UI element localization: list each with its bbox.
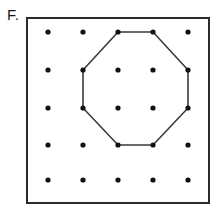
grid-dot bbox=[150, 177, 155, 182]
grid-dot bbox=[115, 29, 120, 34]
grid-dot bbox=[185, 67, 190, 72]
grid-dot bbox=[115, 142, 120, 147]
grid-dot bbox=[185, 177, 190, 182]
grid-dot bbox=[45, 177, 50, 182]
grid-dot bbox=[45, 29, 50, 34]
grid-dot bbox=[45, 105, 50, 110]
grid-dot bbox=[150, 67, 155, 72]
grid-dot bbox=[45, 142, 50, 147]
grid-dot bbox=[115, 177, 120, 182]
grid-dot bbox=[185, 29, 190, 34]
grid-dot bbox=[115, 105, 120, 110]
grid-dot bbox=[150, 29, 155, 34]
grid-dot bbox=[150, 105, 155, 110]
grid-dot bbox=[80, 177, 85, 182]
grid-dot bbox=[80, 142, 85, 147]
grid-dot bbox=[150, 142, 155, 147]
grid-dot bbox=[80, 105, 85, 110]
grid-dot bbox=[185, 142, 190, 147]
grid-dot bbox=[80, 67, 85, 72]
grid-dot bbox=[115, 67, 120, 72]
grid-dot bbox=[80, 29, 85, 34]
grid-dot bbox=[45, 67, 50, 72]
geoboard-diagram bbox=[0, 0, 219, 213]
figure-container: F. bbox=[0, 0, 219, 213]
grid-dot bbox=[185, 105, 190, 110]
